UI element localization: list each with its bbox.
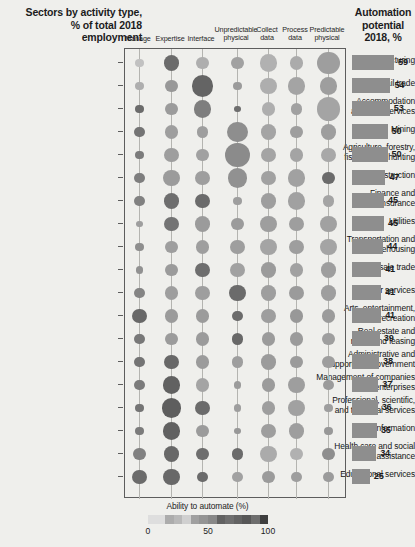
bubble [262,378,275,391]
automation-bar [352,331,380,346]
bubble [135,404,144,413]
bubble [261,148,276,163]
row-tick [118,269,123,270]
row-tick [118,131,123,132]
bubble [323,195,334,206]
bubble [232,472,242,482]
automation-bar [352,262,381,277]
row-tick [118,200,123,201]
automation-bar-value: 59 [398,55,408,70]
automation-bar-value: 47 [389,170,399,185]
bubble [195,286,210,301]
automation-bar [352,285,381,300]
legend-swatch [242,515,251,524]
bubble [321,262,337,278]
legend-swatch [148,515,157,524]
bubble [165,241,177,253]
automation-bar [352,239,383,254]
bubble [262,102,275,115]
bubble [261,262,277,278]
bubble [261,309,276,324]
automation-bar [352,308,381,323]
bubble [323,380,333,390]
legend-swatch [174,515,183,524]
bubble [195,401,210,416]
bubble [290,332,303,345]
bubble [322,309,335,322]
bubble [163,422,181,440]
bubble [232,356,243,367]
bubble [260,78,277,95]
bubble-plot-area [124,48,346,498]
legend-swatch [208,515,217,524]
automation-bar-value: 41 [385,262,395,277]
bubble [261,124,277,140]
bubble [261,354,277,370]
bubble [134,127,144,137]
page-title-line-1: Sectors by activity type, [4,6,142,19]
bubble [135,427,144,436]
bubble [288,192,306,210]
bubble [231,57,243,69]
bubble [133,448,145,460]
legend-swatch [260,515,269,524]
automation-header-line-1: Automation [352,6,414,19]
bubble [290,126,302,138]
bubble [135,243,144,252]
bubble [197,126,208,137]
bubble [288,169,306,187]
bubble [164,193,180,209]
automation-bar [352,400,378,415]
legend-color-scale [148,515,268,524]
automation-bar [352,147,388,162]
bubble [132,309,147,324]
bubble [164,355,179,370]
automation-bar-value: 45 [388,216,398,231]
bubble [164,446,180,462]
bubble [288,77,306,95]
bubble [321,285,337,301]
bubble [290,56,303,69]
automation-bar-value: 39 [384,331,394,346]
bubble [135,82,144,91]
bubble [324,404,333,413]
bubble [230,263,245,278]
bubble [196,425,208,437]
automation-bar [352,55,394,70]
bubble [232,448,243,459]
bubble [136,266,144,274]
bubble [233,197,242,206]
automation-bar [352,469,370,484]
row-tick [118,315,123,316]
bubble [230,240,245,255]
bubble [321,124,337,140]
bubble [195,171,210,186]
bubble [262,332,275,345]
bubble [165,80,177,92]
row-tick [118,154,123,155]
automation-bar-value: 45 [388,193,398,208]
bubble [163,469,180,486]
automation-bar [352,377,378,392]
column-header-line: physical [301,34,353,42]
bubble [134,380,144,390]
bubble [165,333,177,345]
bubble [227,122,247,142]
bubble [225,143,250,168]
bubble [234,381,242,389]
legend-swatch [182,515,191,524]
bubble [232,311,242,321]
automation-bar [352,354,379,369]
bubble [262,401,275,414]
bubble [132,470,147,485]
bubble [291,472,301,482]
bubble [261,193,277,209]
bubble [165,309,178,322]
legend-swatch [191,515,200,524]
automation-bar-value: 53 [394,101,404,116]
legend-tick-100: 100 [253,526,283,536]
row-tick [118,430,123,431]
bubble [289,240,304,255]
legend-swatch [157,515,166,524]
bubble [136,221,143,228]
